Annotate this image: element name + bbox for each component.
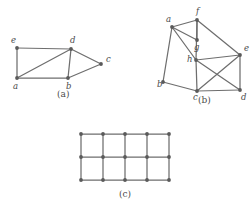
- vertex-label-c: c: [106, 54, 111, 64]
- graph-vertex-node-h: [194, 58, 198, 62]
- graph-edge-a-g: [172, 27, 197, 40]
- graph-vertex-node-f: [195, 18, 199, 22]
- graph-vertex-node: [79, 155, 83, 159]
- graph-vertex-node-a: [170, 25, 174, 29]
- caption-panel-c: (c): [119, 189, 131, 199]
- vertex-label-a: a: [13, 81, 18, 91]
- graph-vertex-node-b: [66, 76, 70, 80]
- graph-vertex-node: [145, 155, 149, 159]
- graph-figure-svg: edabc afghebcd (a)(b)(c): [0, 0, 252, 204]
- vertex-label-e: e: [244, 43, 249, 53]
- graph-edge-f-e: [197, 20, 240, 55]
- graph-edge-d-c: [71, 49, 101, 64]
- panel-captions: (a)(b)(c): [57, 89, 211, 199]
- vertex-label-e: e: [11, 35, 16, 45]
- caption-panel-b: (b): [198, 95, 211, 105]
- graph-edge-h-e: [196, 55, 240, 60]
- graph-vertex-node-e: [238, 53, 242, 57]
- graph-vertex-node: [123, 155, 127, 159]
- graph-vertex-node: [123, 178, 127, 182]
- graph-edge-c-d: [197, 90, 240, 91]
- graph-vertex-node-e: [15, 46, 19, 50]
- graph-vertex-node: [101, 155, 105, 159]
- graph-edge-h-c: [196, 60, 197, 91]
- graph-vertex-node: [123, 132, 127, 136]
- graph-vertex-node: [145, 132, 149, 136]
- graph-vertex-node-c: [99, 62, 103, 66]
- vertex-label-d: d: [70, 35, 76, 45]
- vertex-label-d: d: [241, 92, 247, 102]
- graph-edge-d-b: [68, 49, 71, 78]
- vertex-label-f: f: [195, 6, 201, 16]
- vertex-label-h: h: [187, 54, 192, 64]
- graph-edge-a-f: [172, 20, 197, 27]
- graph-edge-a-d: [17, 49, 71, 78]
- graph-edge-a-b: [163, 27, 172, 82]
- figure-root: edabc afghebcd (a)(b)(c): [0, 0, 252, 204]
- graph-vertex-node-d: [69, 47, 73, 51]
- graph-vertex-node: [167, 155, 171, 159]
- graph-vertex-node: [101, 178, 105, 182]
- graph-vertex-node: [145, 178, 149, 182]
- graph-vertex-node-a: [15, 76, 19, 80]
- graph-edge-e-d: [17, 48, 71, 49]
- vertex-label-g: g: [194, 42, 200, 52]
- vertex-label-b: b: [157, 79, 162, 89]
- graph-vertex-node: [79, 132, 83, 136]
- caption-panel-a: (a): [57, 89, 69, 99]
- graph-vertex-node: [79, 178, 83, 182]
- graph-vertex-node: [167, 178, 171, 182]
- graph-vertex-node: [167, 132, 171, 136]
- panel-c-graph: [79, 132, 171, 182]
- graph-edge-b-c: [163, 82, 197, 91]
- panel-a-graph: edabc: [11, 35, 111, 91]
- graph-edge-b-c: [68, 64, 101, 78]
- graph-vertex-node: [101, 132, 105, 136]
- panel-b-graph: afghebcd: [157, 6, 249, 102]
- vertex-label-a: a: [166, 14, 171, 24]
